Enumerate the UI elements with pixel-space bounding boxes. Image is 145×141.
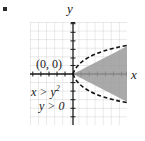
origin-point-label: (0, 0): [36, 58, 62, 70]
inequality-1-exponent: 2: [56, 84, 60, 93]
inequality-line-1: x > y2: [31, 85, 64, 99]
bullet-marker-icon: [3, 7, 7, 11]
shaded-solution-region: [73, 46, 127, 102]
x-axis-label: x: [131, 68, 137, 81]
inequality-line-2: y > 0: [31, 99, 64, 113]
parabola-inequality-figure: y x (0, 0) x > y2 y > 0: [0, 0, 145, 141]
y-axis-label: y: [67, 2, 73, 15]
inequality-system-label: x > y2 y > 0: [31, 85, 64, 113]
inequality-1-lhs: x >: [31, 85, 47, 99]
